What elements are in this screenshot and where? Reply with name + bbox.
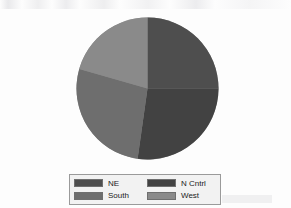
legend-item-south[interactable]: South: [74, 191, 143, 202]
scan-artifact-top: [0, 0, 291, 9]
legend-label-ne: NE: [108, 179, 119, 188]
legend-item-n-cntrl[interactable]: N Cntrl: [147, 178, 216, 189]
legend: NE N Cntrl South West: [69, 174, 221, 205]
legend-item-west[interactable]: West: [147, 191, 216, 202]
legend-item-ne[interactable]: NE: [74, 178, 143, 189]
plot-area: NE N Cntrl South West: [0, 9, 291, 208]
legend-swatch-n-cntrl: [147, 179, 176, 187]
scan-artifact-bottom: [222, 195, 272, 203]
legend-label-west: West: [181, 191, 199, 200]
legend-swatch-west: [147, 192, 176, 200]
pie-svg: [76, 17, 219, 160]
pie-chart-screenshot: NE N Cntrl South West: [0, 0, 291, 208]
legend-label-n-cntrl: N Cntrl: [181, 179, 206, 188]
pie-slice-n-cntrl[interactable]: [138, 89, 219, 160]
pie-slice-ne[interactable]: [148, 18, 219, 89]
legend-swatch-south: [74, 192, 103, 200]
pie-chart: [76, 17, 219, 160]
legend-swatch-ne: [74, 179, 103, 187]
legend-grid: NE N Cntrl South West: [74, 178, 216, 201]
legend-label-south: South: [108, 191, 129, 200]
